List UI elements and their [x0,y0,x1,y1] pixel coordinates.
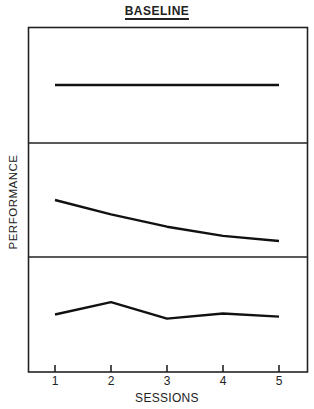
x-tick-label: 1 [45,374,65,388]
plot-frame [29,28,308,373]
series-bottom-line [55,302,279,319]
series-middle-line [55,200,279,241]
x-ticks [55,365,279,372]
x-tick-label: 5 [269,374,289,388]
x-tick-label: 2 [101,374,121,388]
y-axis-label: PERFORMANCE [7,152,19,252]
x-tick-label: 4 [213,374,233,388]
x-axis-label: SESSIONS [0,391,314,405]
plot-area [0,0,314,409]
x-tick-label: 3 [157,374,177,388]
